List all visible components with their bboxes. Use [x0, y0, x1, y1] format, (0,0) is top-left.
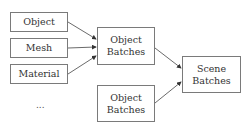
- object-batches-box-1: Object Batches: [97, 27, 155, 65]
- object-batches-box-2: Object Batches: [97, 85, 155, 122]
- scene-batches-box: Scene Batches: [182, 56, 241, 93]
- material-box: Material: [10, 64, 68, 84]
- object-batches-label-1: Object Batches: [107, 34, 145, 58]
- scene-batches-label: Scene Batches: [192, 63, 230, 87]
- material-label: Material: [18, 68, 59, 80]
- ellipsis: ...: [36, 100, 45, 110]
- object-batches-label-2: Object Batches: [107, 92, 145, 116]
- mesh-box: Mesh: [10, 38, 68, 58]
- mesh-label: Mesh: [26, 42, 52, 54]
- object-box: Object: [10, 12, 68, 32]
- object-label: Object: [23, 16, 55, 28]
